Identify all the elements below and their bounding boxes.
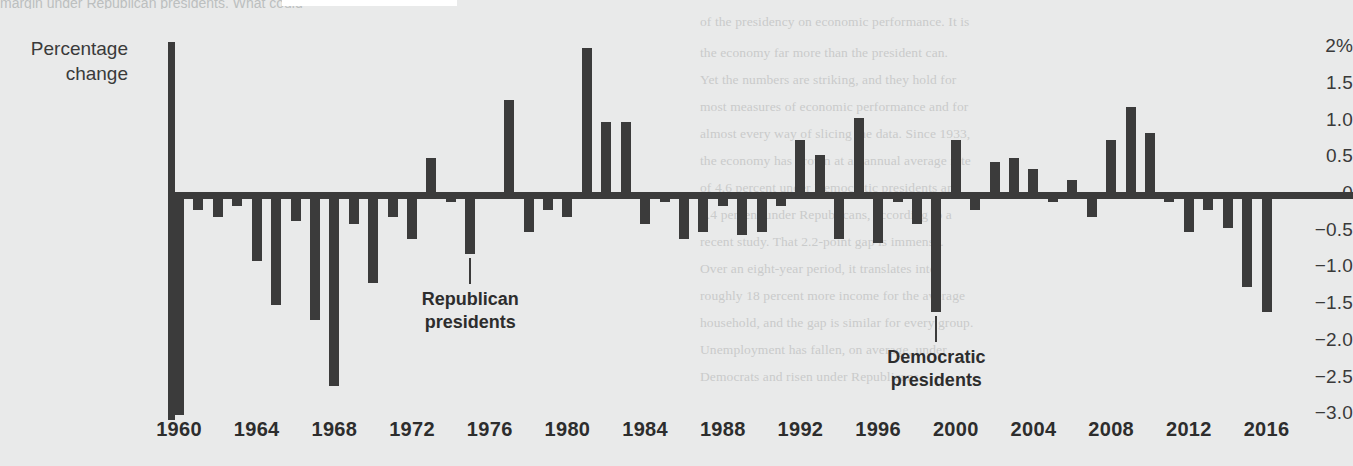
bar-1990: [757, 195, 767, 232]
y-tick-minus2_5: −2.5: [1188, 366, 1353, 388]
x-tick-2012: 2012: [1166, 418, 1212, 441]
bar-2009: [1126, 107, 1136, 195]
bar-1978: [524, 195, 534, 232]
y-tick-2pct: 2%: [1188, 35, 1353, 57]
bar-1996: [873, 195, 883, 243]
bar-1986: [679, 195, 689, 239]
x-tick-1964: 1964: [234, 418, 280, 441]
bar-2016: [1262, 195, 1272, 312]
bar-1993: [815, 155, 825, 195]
bar-1967: [310, 195, 320, 320]
bar-1981: [582, 48, 592, 195]
annotation-leader-line: [935, 316, 937, 342]
bar-1983: [621, 122, 631, 195]
x-tick-2000: 2000: [933, 418, 979, 441]
bar-1962: [213, 195, 223, 217]
annotation-label-democratic: Democraticpresidents: [887, 346, 985, 392]
bar-1999: [931, 195, 941, 312]
bar-1985: [660, 195, 670, 202]
bar-1968: [329, 195, 339, 386]
bar-1961: [193, 195, 203, 210]
x-tick-1968: 1968: [312, 418, 358, 441]
bar-1980: [562, 195, 572, 217]
bar-1971: [388, 195, 398, 217]
bar-1966: [291, 195, 301, 221]
x-tick-1980: 1980: [545, 418, 591, 441]
bar-2006: [1067, 180, 1077, 195]
bar-2008: [1106, 140, 1116, 195]
bar-2012: [1184, 195, 1194, 232]
bar-1969: [349, 195, 359, 224]
x-tick-1972: 1972: [389, 418, 435, 441]
bar-1970: [368, 195, 378, 283]
x-tick-2008: 2008: [1088, 418, 1134, 441]
bar-1998: [912, 195, 922, 224]
bar-1991: [776, 195, 786, 206]
x-tick-1996: 1996: [855, 418, 901, 441]
bar-2002: [990, 162, 1000, 195]
bar-2014: [1223, 195, 1233, 228]
bar-1965: [271, 195, 281, 305]
bar-1977: [504, 100, 514, 195]
chart-page: margin under Republican presidents. What…: [0, 0, 1353, 466]
bar-1973: [426, 158, 436, 195]
bar-1964: [252, 195, 262, 261]
annotation-label-line2: presidents: [887, 369, 985, 392]
bar-1987: [698, 195, 708, 232]
bar-1989: [737, 195, 747, 235]
annotation-label-line2: presidents: [422, 311, 519, 334]
bar-2003: [1009, 158, 1019, 195]
bar-2010: [1145, 133, 1155, 195]
bar-2011: [1164, 195, 1174, 202]
x-tick-2016: 2016: [1244, 418, 1290, 441]
bar-2013: [1203, 195, 1213, 210]
bar-1997: [893, 195, 903, 202]
x-tick-1976: 1976: [467, 418, 513, 441]
x-tick-1960: 1960: [156, 418, 202, 441]
annotation-label-line1: Republican: [422, 288, 519, 311]
bar-2015: [1242, 195, 1252, 287]
bar-1994: [834, 195, 844, 239]
x-tick-2004: 2004: [1011, 418, 1057, 441]
bar-1982: [601, 122, 611, 195]
bar-1975: [465, 195, 475, 254]
y-axis-title: Percentage change: [8, 36, 128, 86]
bar-1988: [718, 195, 728, 206]
annotation-leader-line: [469, 258, 471, 284]
bar-1974: [446, 195, 456, 202]
bar-1963: [232, 195, 242, 206]
bar-2004: [1028, 169, 1038, 195]
bar-1960: [174, 195, 184, 415]
annotation-label-line1: Democratic: [887, 346, 985, 369]
x-tick-1988: 1988: [700, 418, 746, 441]
y-tick-minus2_0: −2.0: [1188, 329, 1353, 351]
bar-2000: [951, 140, 961, 195]
y-tick-1_0: 1.0: [1188, 109, 1353, 131]
y-tick-0_5: 0.5: [1188, 145, 1353, 167]
y-tick-1_5: 1.5: [1188, 72, 1353, 94]
bar-1976: [485, 195, 495, 199]
x-tick-1984: 1984: [622, 418, 668, 441]
bar-1984: [640, 195, 650, 224]
bar-1972: [407, 195, 417, 239]
bar-2005: [1048, 195, 1058, 202]
annotation-label-republican: Republicanpresidents: [422, 288, 519, 334]
bar-1979: [543, 195, 553, 210]
bar-1992: [795, 140, 805, 195]
bar-2007: [1087, 195, 1097, 217]
bar-chart: Percentage change 2%1.51.00.50−0.5−1.0−1…: [0, 0, 1353, 466]
x-tick-1992: 1992: [778, 418, 824, 441]
y-axis-title-line2: change: [8, 61, 128, 86]
y-axis-title-line1: Percentage: [8, 36, 128, 61]
bar-1995: [854, 118, 864, 195]
bar-2001: [970, 195, 980, 210]
